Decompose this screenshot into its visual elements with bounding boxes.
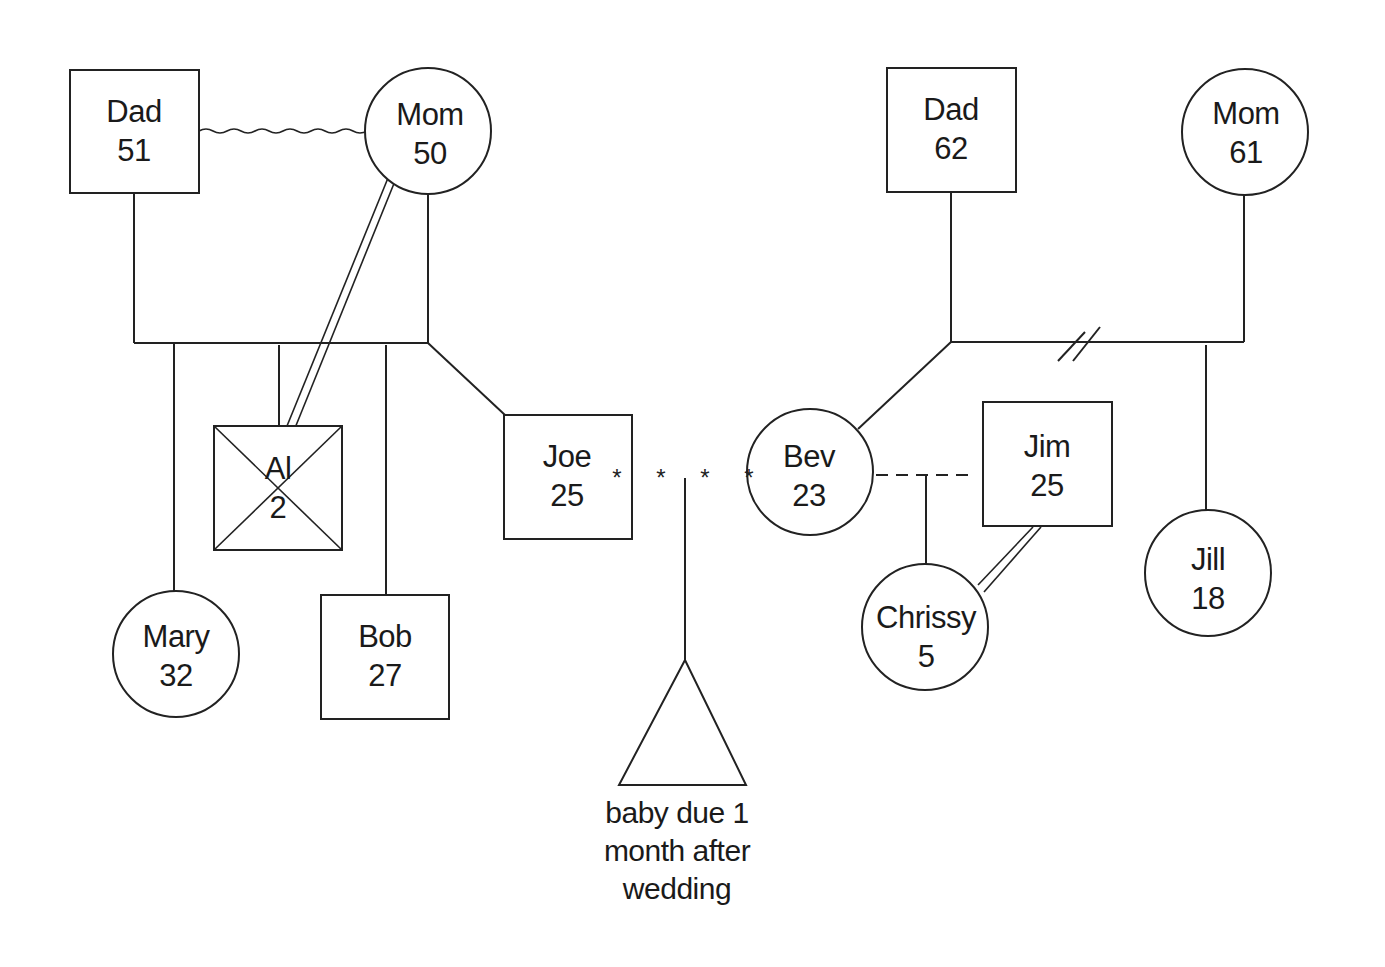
person-age: 62: [923, 129, 978, 168]
divorce-slash-b: [1073, 327, 1100, 361]
pregnancy-note: baby due 1 month after wedding: [604, 794, 750, 908]
note-line: wedding: [604, 870, 750, 908]
person-age: 5: [876, 637, 976, 676]
person-name: Dad: [106, 92, 161, 131]
person-age: 25: [1024, 466, 1071, 505]
person-chrissy: Chrissy 5: [876, 598, 976, 676]
person-name: Dad: [923, 90, 978, 129]
person-name: Joe: [543, 437, 591, 476]
person-name: Bob: [358, 617, 412, 656]
person-bob: Bob 27: [358, 617, 412, 695]
person-name: Jim: [1024, 427, 1071, 466]
note-line: baby due 1: [604, 794, 750, 832]
person-jim: Jim 25: [1024, 427, 1071, 505]
bev-drop-line: [858, 342, 951, 429]
person-mary: Mary 32: [143, 617, 210, 695]
person-dad2: Dad 62: [923, 90, 978, 168]
person-age: 32: [143, 656, 210, 695]
person-age: 50: [396, 134, 463, 173]
person-name: Jill: [1191, 540, 1225, 579]
divorce-slash-a: [1058, 332, 1085, 361]
person-bev: Bev 23: [783, 437, 835, 515]
jim-chrissy-close-line-b: [984, 527, 1041, 592]
person-mom1: Mom 50: [396, 95, 463, 173]
person-age: 2: [265, 488, 292, 527]
person-joe: Joe 25: [543, 437, 591, 515]
note-line: month after: [604, 832, 750, 870]
person-name: Al: [265, 449, 292, 488]
mom-al-close-line-a: [287, 178, 388, 426]
person-age: 51: [106, 131, 161, 170]
person-dad1: Dad 51: [106, 92, 161, 170]
pregnancy-triangle: [619, 660, 746, 785]
person-age: 23: [783, 476, 835, 515]
joe-drop-line: [428, 343, 505, 415]
person-mom2: Mom 61: [1212, 94, 1279, 172]
jim-chrissy-close-line-a: [978, 527, 1033, 585]
conflict-wavy-line: [199, 129, 373, 133]
person-jill: Jill 18: [1191, 540, 1225, 618]
person-age: 27: [358, 656, 412, 695]
person-name: Mom: [1212, 94, 1279, 133]
person-age: 25: [543, 476, 591, 515]
person-name: Bev: [783, 437, 835, 476]
person-name: Chrissy: [876, 598, 976, 637]
person-age: 18: [1191, 579, 1225, 618]
person-al: Al 2: [265, 449, 292, 527]
mom-al-close-line-b: [295, 181, 395, 428]
person-age: 61: [1212, 133, 1279, 172]
engagement-asterisks: * * * *: [612, 464, 767, 492]
person-name: Mom: [396, 95, 463, 134]
person-name: Mary: [143, 617, 210, 656]
